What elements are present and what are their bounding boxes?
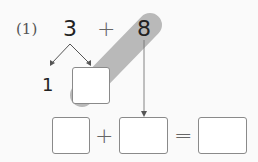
answer-box-result[interactable] [198, 117, 247, 154]
equation-plus: + [95, 125, 113, 147]
operand-a: 3 [63, 18, 77, 40]
split-part: 1 [42, 76, 53, 94]
arrow-right [70, 44, 89, 63]
equation-equals: = [174, 125, 192, 147]
split-blank-box[interactable] [72, 67, 110, 104]
operand-b: 8 [137, 18, 151, 40]
problem-label: (1) [16, 20, 37, 38]
arrow-left [52, 44, 70, 63]
answer-box-2[interactable] [119, 117, 168, 154]
answer-box-1[interactable] [52, 117, 90, 154]
operator-plus: + [97, 18, 115, 40]
